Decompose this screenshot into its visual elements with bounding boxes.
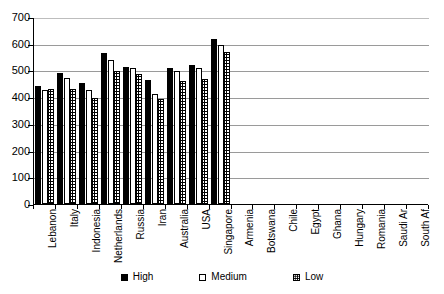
x-axis-labels: LebanonItalyIndonesiaNetherlandsRussiaIr… (33, 209, 428, 265)
y-axis-tick-label: 700 (0, 12, 30, 23)
y-axis-tick-label: 100 (0, 172, 30, 183)
bar-group (123, 17, 142, 204)
bar-high-iran (145, 80, 151, 204)
x-axis-category-label: Iran (158, 209, 168, 226)
bar-low-italy (70, 89, 76, 204)
bar-medium-singapore (218, 45, 224, 204)
bar-group (255, 17, 274, 204)
bar-group (277, 17, 296, 204)
bar-low-netherlands (114, 71, 120, 204)
bar-medium-australia (174, 71, 180, 204)
y-axis-tick-label: 300 (0, 119, 30, 130)
x-axis-category-label: Botswana (267, 209, 277, 253)
bar-high-italy (57, 73, 63, 204)
y-axis: 7006005004003002001000 (0, 0, 30, 294)
bar-high-russia (123, 67, 129, 204)
bar-group (79, 17, 98, 204)
x-axis-category-label: Egypt (311, 209, 321, 235)
x-axis-category-label: Chile (289, 209, 299, 232)
x-axis-category-label: South Af (421, 209, 431, 247)
bar-high-australia (167, 68, 173, 204)
bar-low-usa (202, 79, 208, 204)
bar-medium-russia (130, 68, 136, 204)
bar-low-lebanon (48, 89, 54, 204)
bar-high-singapore (211, 39, 217, 204)
bar-group (409, 17, 428, 204)
y-axis-tick-label: 500 (0, 65, 30, 76)
bar-group (211, 17, 230, 204)
bar-group (57, 17, 76, 204)
bar-group (145, 17, 164, 204)
x-axis-category-label: Australia (180, 209, 190, 248)
x-axis-category-label: Hungary (355, 209, 365, 247)
x-axis-category-label: Russia (136, 209, 146, 240)
bar-group (35, 17, 54, 204)
legend-swatch-icon (199, 274, 206, 281)
x-axis-category-label: Ghana (333, 209, 343, 239)
bar-high-indonesia (79, 83, 85, 204)
bar-group (233, 17, 252, 204)
x-axis-category-label: Armenia (245, 209, 255, 246)
bar-group (365, 17, 384, 204)
x-axis-category-label: Romania (377, 209, 387, 249)
bar-chart: 7006005004003002001000 LebanonItalyIndon… (0, 0, 444, 294)
y-axis-tick-label: 400 (0, 92, 30, 103)
bar-low-australia (180, 81, 186, 204)
bar-group (101, 17, 120, 204)
x-axis-category-label: Italy (70, 209, 80, 227)
bar-group (167, 17, 186, 204)
legend-item-low[interactable]: Low (293, 272, 323, 282)
chart-legend: HighMediumLow (0, 268, 444, 286)
bar-group (387, 17, 406, 204)
bar-low-singapore (224, 52, 230, 204)
plot-area (33, 18, 428, 205)
bar-group (321, 17, 340, 204)
legend-item-medium[interactable]: Medium (199, 272, 247, 282)
bar-medium-lebanon (42, 90, 48, 204)
y-axis-tick-label: 0 (0, 199, 30, 210)
bar-medium-iran (152, 94, 158, 204)
legend-item-high[interactable]: High (121, 272, 154, 282)
x-axis-category-label: Netherlands (114, 209, 124, 263)
legend-swatch-icon (121, 274, 128, 281)
y-axis-tick-label: 200 (0, 146, 30, 157)
bar-group (299, 17, 318, 204)
bar-group (189, 17, 208, 204)
bar-medium-netherlands (108, 60, 114, 204)
bar-medium-italy (64, 78, 70, 204)
bar-high-lebanon (35, 86, 41, 204)
bar-medium-indonesia (86, 90, 92, 204)
bar-high-netherlands (101, 53, 107, 204)
x-axis-category-label: Singapore (224, 209, 234, 255)
bar-low-iran (158, 99, 164, 204)
bar-high-usa (189, 65, 195, 204)
bar-medium-usa (196, 68, 202, 204)
bar-low-indonesia (92, 98, 98, 204)
x-axis-category-label: USA (202, 209, 212, 230)
y-axis-tick-label: 600 (0, 39, 30, 50)
legend-label: High (133, 272, 154, 282)
legend-label: Low (305, 272, 323, 282)
bar-group (343, 17, 362, 204)
x-axis-category-label: Saudi Ar (399, 209, 409, 247)
legend-label: Medium (211, 272, 247, 282)
x-axis-category-label: Lebanon (48, 209, 58, 248)
x-axis-category-label: Indonesia (92, 209, 102, 252)
legend-swatch-icon (293, 274, 300, 281)
bar-low-russia (136, 74, 142, 204)
